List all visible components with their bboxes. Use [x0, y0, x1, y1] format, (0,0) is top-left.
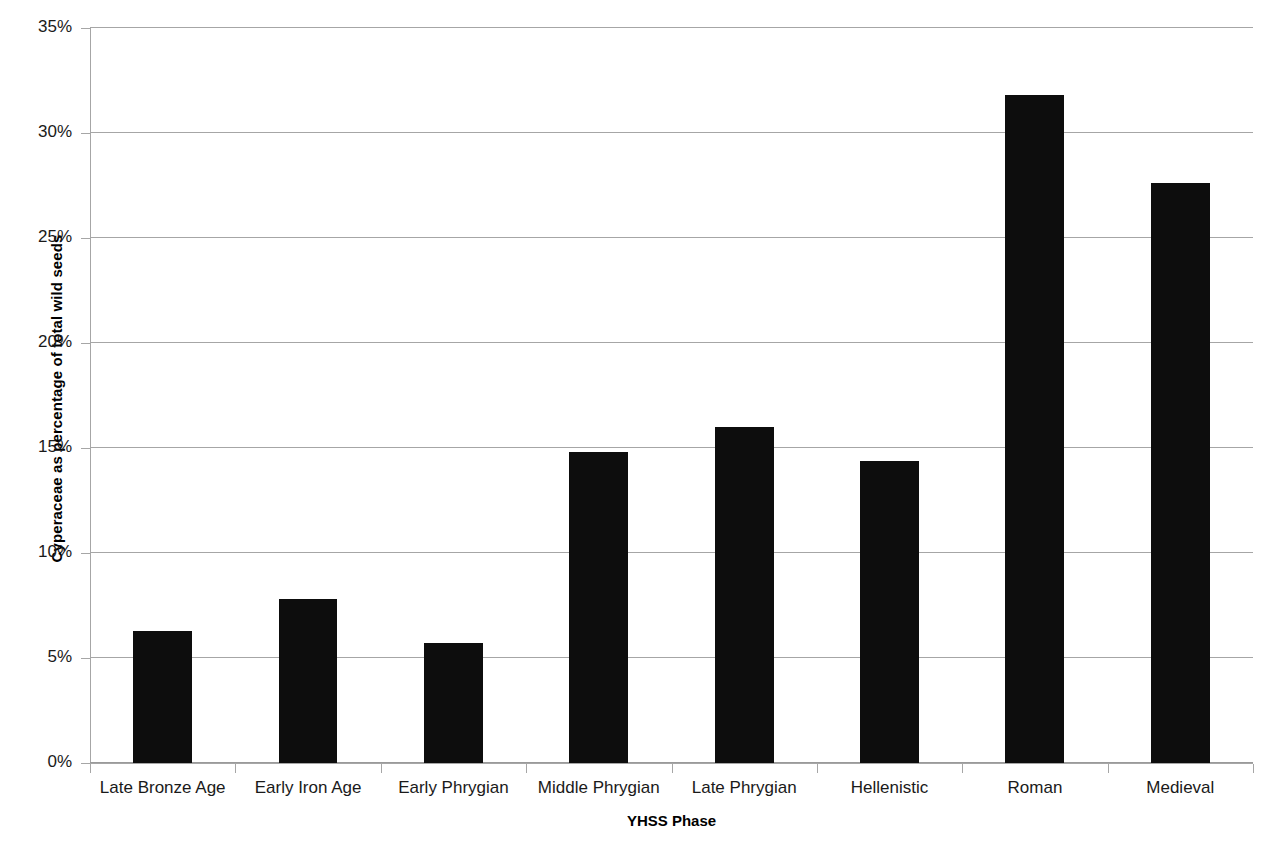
y-axis-tick-label: 10% — [12, 542, 72, 562]
x-axis-labels: Late Bronze AgeEarly Iron AgeEarly Phryg… — [90, 778, 1253, 808]
x-axis-tick — [235, 764, 236, 773]
bar-late-bronze-age — [133, 631, 192, 763]
x-axis-label: Roman — [962, 778, 1107, 798]
x-axis-tick — [381, 764, 382, 773]
x-axis-title: YHSS Phase — [90, 812, 1253, 829]
y-axis-tick — [81, 763, 90, 764]
bar-hellenistic — [860, 461, 919, 763]
x-axis-label: Middle Phrygian — [526, 778, 671, 798]
y-axis-tick-label: 5% — [12, 647, 72, 667]
y-axis-tick — [81, 238, 90, 239]
x-axis-label: Late Phrygian — [672, 778, 817, 798]
bar-middle-phrygian — [569, 452, 628, 763]
y-axis-tick — [81, 553, 90, 554]
x-axis-label: Early Phrygian — [381, 778, 526, 798]
x-axis-tick — [817, 764, 818, 773]
x-axis-tick — [1253, 764, 1254, 773]
y-axis-tick-label: 20% — [12, 332, 72, 352]
x-axis-tick — [90, 764, 91, 773]
plot-area — [90, 28, 1253, 763]
y-axis-tick — [81, 28, 90, 29]
x-axis-tick — [962, 764, 963, 773]
x-axis-label: Medieval — [1108, 778, 1253, 798]
y-axis-tick-label: 25% — [12, 227, 72, 247]
y-axis-title: Cyperaceae as percentage of total wild s… — [48, 69, 65, 729]
x-axis-label: Early Iron Age — [235, 778, 380, 798]
x-axis-label: Hellenistic — [817, 778, 962, 798]
bar-late-phrygian — [715, 427, 774, 763]
y-axis-tick-label: 0% — [12, 752, 72, 772]
y-axis-tick — [81, 658, 90, 659]
bars — [90, 28, 1253, 763]
x-axis-label: Late Bronze Age — [90, 778, 235, 798]
x-axis-tick — [672, 764, 673, 773]
bar-early-iron-age — [279, 599, 338, 763]
x-axis-tick — [1108, 764, 1109, 773]
bar-chart: Cyperaceae as percentage of total wild s… — [0, 0, 1267, 847]
x-axis-tick — [526, 764, 527, 773]
bar-roman — [1005, 95, 1064, 763]
y-axis-tick — [81, 448, 90, 449]
y-axis-tick — [81, 343, 90, 344]
y-axis-tick-label: 15% — [12, 437, 72, 457]
y-axis-tick-label: 35% — [12, 17, 72, 37]
y-axis-tick — [81, 133, 90, 134]
bar-early-phrygian — [424, 643, 483, 763]
bar-medieval — [1151, 183, 1210, 763]
y-axis-tick-label: 30% — [12, 122, 72, 142]
